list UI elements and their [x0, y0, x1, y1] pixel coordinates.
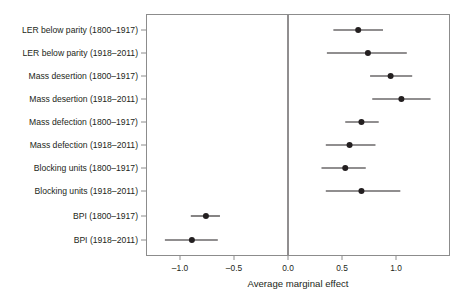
category-label: BPI (1918–2011): [74, 235, 138, 245]
estimate-point: [355, 27, 361, 33]
estimate-point: [358, 119, 364, 125]
category-label: LER below parity (1800–1917): [22, 25, 138, 35]
category-label: Blocking units (1800–1917): [34, 163, 138, 173]
x-axis-tick-label: –0.5: [226, 263, 243, 273]
estimate-point: [342, 165, 348, 171]
x-axis-tick-label: 1.0: [390, 263, 402, 273]
estimate-point: [203, 213, 209, 219]
category-label: Mass defection (1800–1917): [29, 117, 138, 127]
category-label: Mass desertion (1800–1917): [29, 71, 139, 81]
estimate-point: [365, 50, 371, 56]
x-axis-title: Average marginal effect: [248, 278, 349, 289]
category-label: Mass defection (1918–2011): [30, 140, 138, 150]
forest-plot-svg: LER below parity (1800–1917)LER below pa…: [0, 0, 462, 301]
estimate-point: [398, 96, 404, 102]
x-axis-tick-label: 0.5: [336, 263, 348, 273]
x-axis-tick-label: –1.0: [172, 263, 189, 273]
category-label: Blocking units (1918–2011): [34, 186, 138, 196]
category-label: BPI (1800–1917): [73, 211, 138, 221]
category-label: LER below parity (1918–2011): [23, 48, 139, 58]
estimate-point: [358, 188, 364, 194]
estimate-point: [189, 237, 195, 243]
x-axis-tick-label: 0.0: [282, 263, 294, 273]
estimate-point: [388, 73, 394, 79]
forest-plot: LER below parity (1800–1917)LER below pa…: [0, 0, 462, 301]
category-label: Mass desertion (1918–2011): [29, 94, 138, 104]
estimate-point: [347, 142, 353, 148]
